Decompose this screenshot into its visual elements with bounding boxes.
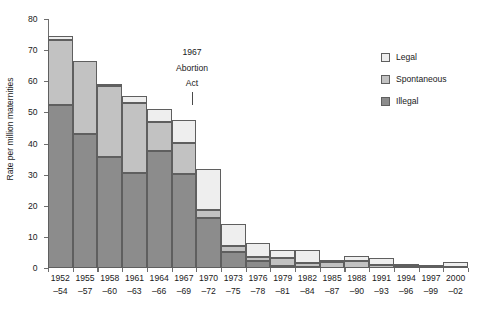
x-axis-label: 2000–02 (446, 272, 465, 297)
bar-group[interactable] (48, 19, 73, 268)
bar-segment-illegal[interactable] (246, 261, 271, 268)
x-axis-label: 1982–84 (298, 272, 317, 297)
bar-segment-spontaneous[interactable] (97, 86, 122, 157)
bar-segment-illegal[interactable] (221, 252, 246, 268)
x-axis-label-year-end: –66 (150, 285, 169, 298)
bar-segment-legal[interactable] (419, 265, 444, 267)
annotation-line-2: Abortion (150, 61, 234, 77)
x-axis-label-year-start: 1979 (273, 273, 292, 283)
bar-group[interactable] (295, 19, 320, 268)
x-axis-label-year-start: 1955 (75, 273, 94, 283)
bar-segment-spontaneous[interactable] (369, 265, 394, 268)
legend-item-illegal[interactable]: Illegal (381, 90, 447, 112)
legend-item-spontaneous[interactable]: Spontaneous (381, 68, 447, 90)
x-axis-label-year-end: –57 (75, 285, 94, 298)
bar-segment-legal[interactable] (172, 120, 197, 143)
y-axis-tick-label: 10 (28, 232, 38, 242)
bar-segment-legal[interactable] (97, 84, 122, 86)
y-axis-title: Rate per million maternities (2, 0, 18, 258)
bar-segment-illegal[interactable] (172, 174, 197, 268)
bar-segment-spontaneous[interactable] (320, 262, 345, 268)
bar-segment-illegal[interactable] (48, 105, 73, 268)
x-axis-label: 1997–99 (421, 272, 440, 297)
x-axis-label-year-start: 1994 (397, 273, 416, 283)
x-axis-label-year-end: –54 (51, 285, 70, 298)
x-axis-label: 1985–87 (323, 272, 342, 297)
bar-segment-illegal[interactable] (97, 157, 122, 268)
x-axis-label-year-end: –87 (323, 285, 342, 298)
x-axis-label: 1955–57 (75, 272, 94, 297)
bar-segment-illegal[interactable] (270, 266, 295, 268)
x-axis-label-year-end: –69 (174, 285, 193, 298)
y-axis-tick-label: 80 (28, 14, 38, 24)
bar-segment-spontaneous[interactable] (295, 263, 320, 267)
x-axis-label-year-start: 1988 (347, 273, 366, 283)
bar-segment-legal[interactable] (369, 258, 394, 265)
x-axis-label-year-start: 1976 (248, 273, 267, 283)
bar-segment-legal[interactable] (443, 262, 468, 268)
abortion-mortality-stacked-bar-chart: Rate per million maternities 01020304050… (0, 0, 486, 315)
bar-segment-legal[interactable] (320, 260, 345, 262)
bar-segment-legal[interactable] (196, 169, 221, 210)
y-axis-title-text: Rate per million maternities (5, 78, 15, 181)
x-axis-label: 1952–54 (51, 272, 70, 297)
bar-segment-legal[interactable] (295, 250, 320, 263)
x-axis-label: 1970–72 (199, 272, 218, 297)
bar-group[interactable] (97, 19, 122, 268)
bar-segment-spontaneous[interactable] (221, 246, 246, 253)
bar-segment-illegal[interactable] (147, 151, 172, 268)
bar-segment-legal[interactable] (344, 256, 369, 261)
bar-segment-illegal[interactable] (122, 173, 147, 268)
y-axis-tick-label: 0 (33, 263, 38, 273)
x-axis-label-year-start: 1964 (150, 273, 169, 283)
x-axis-label: 1988–90 (347, 272, 366, 297)
x-axis-label-year-start: 1973 (224, 273, 243, 283)
abortion-act-annotation: 1967 Abortion Act (150, 45, 234, 92)
bar-segment-legal[interactable] (394, 264, 419, 266)
x-axis-label-year-start: 1958 (100, 273, 119, 283)
bar-group[interactable] (73, 19, 98, 268)
bar-segment-spontaneous[interactable] (122, 103, 147, 173)
y-axis-tick: 40 (44, 144, 49, 145)
bar-segment-legal[interactable] (246, 243, 271, 258)
bar-segment-legal[interactable] (122, 96, 147, 103)
bar-segment-legal[interactable] (147, 109, 172, 122)
y-axis-tick: 80 (44, 19, 49, 20)
y-axis-tick-label: 30 (28, 170, 38, 180)
bar-segment-spontaneous[interactable] (147, 122, 172, 151)
x-axis-label: 1967–69 (174, 272, 193, 297)
y-axis-tick-label: 50 (28, 107, 38, 117)
bar-group[interactable] (320, 19, 345, 268)
x-axis-tick (468, 268, 469, 272)
y-axis-tick-label: 60 (28, 76, 38, 86)
bar-segment-spontaneous[interactable] (48, 40, 73, 105)
bar-segment-spontaneous[interactable] (344, 261, 369, 268)
bar-segment-legal[interactable] (270, 250, 295, 258)
x-axis-label-year-end: –96 (397, 285, 416, 298)
bar-group[interactable] (443, 19, 468, 268)
bar-group[interactable] (122, 19, 147, 268)
bar-segment-legal[interactable] (221, 224, 246, 246)
x-axis-label-year-end: –81 (273, 285, 292, 298)
y-axis-tick-label: 20 (28, 201, 38, 211)
bar-group[interactable] (270, 19, 295, 268)
bar-segment-spontaneous[interactable] (270, 258, 295, 266)
bar-segment-spontaneous[interactable] (246, 257, 271, 261)
legend-label-illegal: Illegal (396, 96, 418, 106)
bar-segment-spontaneous[interactable] (196, 210, 221, 217)
legend-item-legal[interactable]: Legal (381, 46, 447, 68)
x-axis-label-year-end: –02 (446, 285, 465, 298)
legend-swatch-spontaneous (381, 75, 390, 84)
bar-segment-legal[interactable] (48, 36, 73, 40)
bar-segment-illegal[interactable] (73, 134, 98, 268)
bar-segment-illegal[interactable] (196, 218, 221, 268)
x-axis-label: 1964–66 (150, 272, 169, 297)
x-axis-label-year-end: –90 (347, 285, 366, 298)
x-axis-label: 1973–75 (224, 272, 243, 297)
bar-group[interactable] (246, 19, 271, 268)
bar-segment-spontaneous[interactable] (172, 143, 197, 174)
x-axis-label-year-start: 1961 (125, 273, 144, 283)
y-axis-tick: 10 (44, 237, 49, 238)
bar-segment-spontaneous[interactable] (73, 61, 98, 134)
bar-group[interactable] (344, 19, 369, 268)
